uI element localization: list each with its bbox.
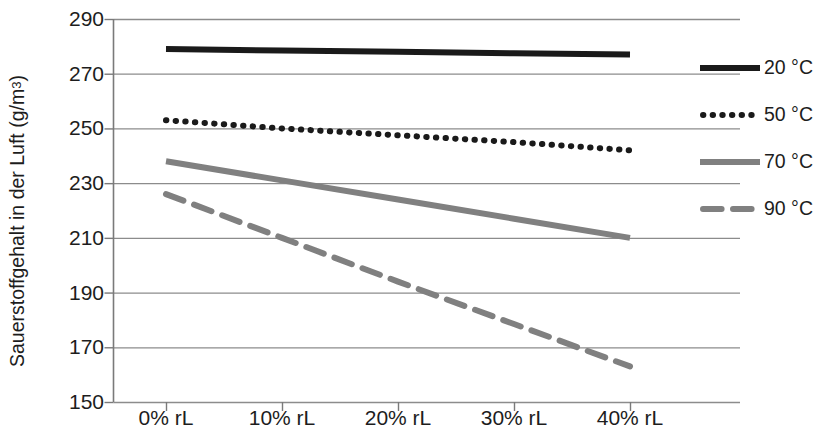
legend-label: 50 °C — [764, 103, 813, 126]
legend-swatch-dashed-icon — [700, 202, 760, 216]
series-line-50c — [166, 120, 630, 150]
data-series-group — [166, 49, 630, 366]
legend-item[interactable]: 70 °C — [700, 138, 819, 185]
series-line-90c — [166, 194, 630, 366]
series-line-20c — [166, 49, 630, 54]
legend: 20 °C50 °C70 °C90 °C — [700, 44, 819, 232]
x-axis-tick-label: 20% rL — [365, 406, 432, 430]
legend-swatch-solid-icon — [700, 61, 760, 75]
legend-label: 90 °C — [764, 197, 813, 220]
x-axis-tick-labels: 0% rL10% rL20% rL30% rL40% rL — [0, 406, 819, 442]
series-line-70c — [166, 161, 630, 238]
legend-label: 70 °C — [764, 150, 813, 173]
legend-label: 20 °C — [764, 56, 813, 79]
legend-item[interactable]: 50 °C — [700, 91, 819, 138]
legend-item[interactable]: 90 °C — [700, 185, 819, 232]
x-axis-tick-label: 0% rL — [139, 406, 194, 430]
axis-ticks — [105, 20, 631, 412]
plot-area — [0, 0, 819, 442]
x-axis-tick-label: 30% rL — [481, 406, 548, 430]
legend-swatch-dotted-icon — [700, 108, 760, 122]
x-axis-tick-label: 40% rL — [597, 406, 664, 430]
x-axis-tick-label: 10% rL — [249, 406, 316, 430]
legend-swatch-solid-icon — [700, 155, 760, 169]
chart-container: Sauerstoffgehalt in der Luft (g/m3) 2902… — [0, 0, 819, 442]
legend-item[interactable]: 20 °C — [700, 44, 819, 91]
